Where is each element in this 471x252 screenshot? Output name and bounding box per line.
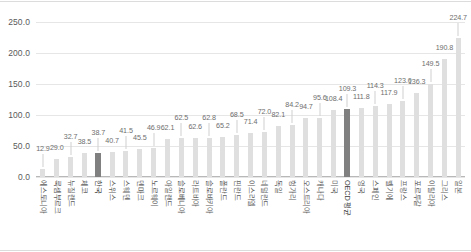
value-leader-line bbox=[70, 142, 71, 155]
bar bbox=[220, 137, 225, 177]
x-axis-category-label: 덴마크 bbox=[136, 180, 143, 200]
bar bbox=[400, 101, 405, 177]
x-label-slot: 오스트리아 bbox=[299, 180, 313, 246]
bar bbox=[151, 148, 156, 177]
bar bbox=[456, 38, 461, 177]
bar-value-label: 72.0 bbox=[258, 107, 272, 116]
x-label-slot: 체코 bbox=[78, 180, 92, 246]
x-label-slot: 라트비아 bbox=[188, 180, 202, 246]
bar-value-label: 29.0 bbox=[50, 143, 64, 152]
bar-slot: 71.4 bbox=[244, 22, 258, 177]
bottom-divider bbox=[0, 250, 471, 251]
bar-value-label: 68.5 bbox=[230, 110, 244, 119]
x-label-slot: 아일랜드 bbox=[161, 180, 175, 246]
x-label-slot: OECD 평균 bbox=[341, 180, 355, 246]
x-label-slot: 포르투갈 bbox=[410, 180, 424, 246]
y-axis-tick-label: 150.0 bbox=[8, 79, 30, 89]
bar-value-label: 38.7 bbox=[92, 128, 106, 137]
bar bbox=[82, 153, 87, 177]
bar bbox=[290, 125, 295, 177]
bar-slot: 62.1 bbox=[161, 22, 175, 177]
top-divider bbox=[0, 1, 471, 2]
bar-value-label: 82.1 bbox=[271, 110, 285, 119]
x-label-slot: 덴마크 bbox=[133, 180, 147, 246]
x-axis-category-label: 미국 bbox=[330, 180, 337, 194]
value-leader-line bbox=[402, 86, 403, 99]
bar bbox=[414, 93, 419, 178]
bar-value-label: 94.7 bbox=[299, 102, 313, 111]
bar-slot: 40.7 bbox=[105, 22, 119, 177]
bar bbox=[373, 106, 378, 177]
gridline bbox=[36, 177, 465, 178]
x-axis-category-label: 아일랜드 bbox=[164, 180, 171, 207]
bar bbox=[331, 110, 336, 177]
bar-value-label: 38.5 bbox=[78, 137, 92, 146]
bar-value-label: 12.9 bbox=[36, 144, 50, 153]
bar bbox=[110, 152, 115, 177]
bar-slot: 38.7 bbox=[91, 22, 105, 177]
x-axis-category-label: 오스트리아 bbox=[302, 180, 309, 214]
value-leader-line bbox=[153, 133, 154, 146]
value-leader-line bbox=[292, 110, 293, 123]
bar-value-label: 62.6 bbox=[188, 122, 202, 131]
bar-value-label: 41.5 bbox=[119, 126, 133, 135]
x-axis-category-label: 헝가리 bbox=[288, 180, 295, 200]
x-axis-category-label: 라트비아 bbox=[192, 180, 199, 207]
bar-slot: 190.8 bbox=[437, 22, 451, 177]
bar bbox=[54, 159, 59, 177]
y-axis-tick-label: 200.0 bbox=[8, 48, 30, 58]
x-label-slot: 헝가리 bbox=[285, 180, 299, 246]
x-axis-category-label: 한국 bbox=[95, 180, 102, 194]
x-label-slot: 스페인 bbox=[368, 180, 382, 246]
bar-slot: 114.3 bbox=[368, 22, 382, 177]
x-label-slot: 미국 bbox=[327, 180, 341, 246]
bar-slot: 65.2 bbox=[216, 22, 230, 177]
x-axis-category-label: 그리스 bbox=[441, 180, 448, 200]
x-axis-category-label: 영국 bbox=[358, 180, 365, 194]
bar-value-label: 111.8 bbox=[353, 92, 369, 101]
bar-slot: 108.4 bbox=[327, 22, 341, 177]
y-axis-tick-label: 50.0 bbox=[13, 141, 30, 151]
x-label-slot: 이스라엘 bbox=[244, 180, 258, 246]
bar-value-label: 46.9 bbox=[147, 123, 161, 132]
bar bbox=[193, 138, 198, 177]
x-axis-category-label: OECD 평균 bbox=[344, 180, 351, 216]
bar-highlighted bbox=[344, 109, 350, 177]
x-axis-category-label: 에스토니아 bbox=[39, 180, 46, 214]
bar bbox=[428, 84, 433, 177]
value-leader-line bbox=[125, 136, 126, 149]
x-axis-category-label: 포르투갈 bbox=[413, 180, 420, 207]
x-label-slot: 네덜란드 bbox=[258, 180, 272, 246]
x-label-slot: 폴란드 bbox=[216, 180, 230, 246]
bar-slot: 41.5 bbox=[119, 22, 133, 177]
x-label-slot: 프랑스 bbox=[396, 180, 410, 246]
x-label-slot: 벨기에 bbox=[382, 180, 396, 246]
bar-slot: 62.8 bbox=[202, 22, 216, 177]
bar-slot: 72.0 bbox=[258, 22, 272, 177]
bar-value-label: 32.7 bbox=[64, 132, 78, 141]
bar-chart: 0.050.0100.0150.0200.0250.0 12.929.032.7… bbox=[0, 0, 471, 252]
bar bbox=[387, 104, 392, 177]
bar-slot: 62.6 bbox=[188, 22, 202, 177]
bar bbox=[442, 59, 447, 177]
y-axis-tick-label: 250.0 bbox=[8, 17, 30, 27]
x-axis-category-label: 핀란드 bbox=[233, 180, 240, 200]
bar-value-label: 45.5 bbox=[133, 133, 147, 142]
x-axis-category-label: 체코 bbox=[81, 180, 88, 194]
bar bbox=[317, 118, 322, 177]
bar bbox=[68, 157, 73, 177]
x-label-slot: 노르웨이 bbox=[147, 180, 161, 246]
x-label-slot: 그리스 bbox=[437, 180, 451, 246]
x-label-slot: 캐나다 bbox=[313, 180, 327, 246]
bar bbox=[359, 108, 364, 177]
bar-slot: 62.5 bbox=[174, 22, 188, 177]
x-axis-category-label: 스웨덴 bbox=[122, 180, 129, 200]
bar-slot: 94.7 bbox=[299, 22, 313, 177]
bar-value-label: 62.1 bbox=[161, 123, 175, 132]
x-label-slot: 영국 bbox=[354, 180, 368, 246]
bar-value-label: 71.4 bbox=[244, 117, 258, 126]
x-axis-category-label: 뉴질랜드 bbox=[67, 180, 74, 207]
x-axis-category-label: 캐나다 bbox=[316, 180, 323, 200]
value-leader-line bbox=[347, 94, 348, 107]
bar-value-label: 62.5 bbox=[175, 113, 189, 122]
